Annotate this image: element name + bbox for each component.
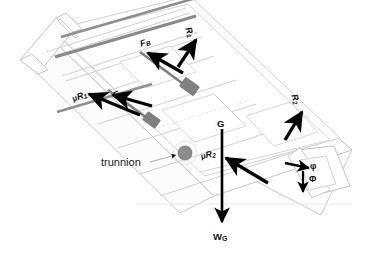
figure-canvas: FB R1 μR1 FT G μR2 R2 WG trunnion φ Φ	[0, 0, 367, 259]
label-phi-cap: Φ	[309, 175, 316, 184]
label-phi-small: φ	[310, 162, 316, 171]
label-trunnion: trunnion	[101, 157, 141, 168]
label-g: G	[217, 119, 224, 129]
free-body-diagram	[0, 0, 367, 259]
label-w-g: WG	[213, 232, 227, 242]
trunnion-circle	[178, 146, 192, 160]
